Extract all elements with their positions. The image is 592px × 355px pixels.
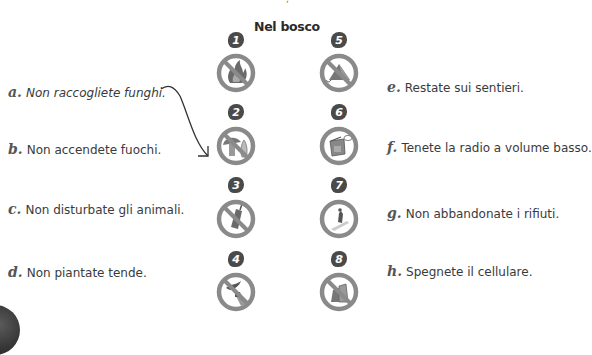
label-text: Non abbandonate i rifiuti.: [406, 207, 560, 221]
label-letter: a.: [8, 84, 22, 100]
example-arrow-icon: [160, 84, 220, 164]
no-fire-icon: [216, 53, 256, 93]
no-phone-icon: [216, 199, 256, 239]
no-animals-icon: [216, 272, 256, 312]
label-c: c.Non disturbate gli animali.: [8, 201, 184, 217]
number-badge-5: 5: [331, 32, 347, 48]
label-letter: e.: [387, 79, 401, 95]
number-badge-1: 1: [228, 32, 244, 48]
label-text: Non disturbate gli animali.: [25, 203, 184, 217]
no-litter-icon: [319, 272, 359, 312]
label-text: Non raccogliete funghi.: [26, 86, 166, 100]
label-f: f.Tenete la radio a volume basso.: [387, 139, 592, 155]
number-badge-4: 4: [228, 251, 244, 267]
label-text: Non piantate tende.: [27, 266, 147, 280]
number-badge-6: 6: [331, 104, 347, 120]
label-letter: b.: [8, 141, 23, 157]
number-badge-7: 7: [331, 177, 347, 193]
number-badge-3: 3: [228, 177, 244, 193]
label-letter: g.: [387, 205, 402, 221]
label-letter: c.: [8, 201, 21, 217]
label-e: e.Restate sui sentieri.: [387, 79, 524, 95]
number-badge-8: 8: [331, 251, 347, 267]
number-badge-2: 2: [228, 104, 244, 120]
label-h: h.Spegnete il cellulare.: [387, 263, 532, 279]
label-text: Tenete la radio a volume basso.: [401, 141, 591, 155]
no-tent-icon: [319, 53, 359, 93]
label-text: Spegnete il cellulare.: [406, 265, 532, 279]
label-letter: d.: [8, 264, 23, 280]
page-edge-mark: ,: [286, 0, 290, 2]
label-b: b.Non accendete fuochi.: [8, 141, 161, 157]
label-text: Restate sui sentieri.: [405, 81, 524, 95]
radio-low-volume-icon: [319, 126, 359, 166]
page-corner-decoration: [0, 305, 20, 355]
label-a: a.Non raccogliete funghi.: [8, 84, 166, 100]
stay-on-path-icon: [319, 199, 359, 239]
label-d: d.Non piantate tende.: [8, 264, 147, 280]
page-title: Nel bosco: [254, 19, 320, 34]
no-mushrooms-icon: [216, 126, 256, 166]
label-g: g.Non abbandonate i rifiuti.: [387, 205, 559, 221]
label-letter: f.: [387, 139, 397, 155]
label-text: Non accendete fuochi.: [27, 143, 162, 157]
label-letter: h.: [387, 263, 402, 279]
